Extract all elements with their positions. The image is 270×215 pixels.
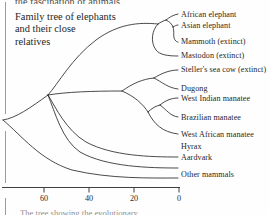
taxon-label-brazilian-manatee: Brazilian manatee xyxy=(181,113,241,122)
axis-tick-label-0: 0 xyxy=(167,194,191,203)
branch-paenungulata-to-proboscidea xyxy=(48,23,158,95)
branch-root-to-other-mammals xyxy=(3,120,178,178)
axis-tick-label-40: 40 xyxy=(77,194,101,203)
taxon-label-hyrax: Hyrax xyxy=(181,142,202,151)
branch-sirenia-to-dugongidae xyxy=(122,78,154,91)
axis-tick-label-20: 20 xyxy=(122,194,146,203)
branch-root-to-paenungulata xyxy=(3,95,48,120)
branch-to-west-indian-manatee xyxy=(160,98,178,105)
branch-sirenia-to-trichechidae xyxy=(122,91,148,112)
branch-elephantidae-to-asian-mammoth xyxy=(166,20,173,27)
branch-proboscidea-to-elephantidae xyxy=(158,20,166,24)
branch-paenungulata-to-sirenia xyxy=(48,91,122,95)
taxon-label-aardvark: Aardvark xyxy=(181,153,212,162)
taxon-label-mastodon: Mastodon (extinct) xyxy=(181,51,244,60)
taxon-label-other-mammals: Other mammals xyxy=(181,170,234,179)
cropped-text-below-figure: The tree showing the evolutionary xyxy=(20,208,230,215)
branch-trichechidae-to-manatee-pair xyxy=(148,105,160,112)
taxon-label-west-african-manatee: West African manatee xyxy=(181,130,254,139)
branch-to-dugong xyxy=(154,78,178,89)
taxon-label-mammoth: Mammoth (extinct) xyxy=(181,37,246,46)
branch-to-stellers-sea-cow xyxy=(154,70,178,78)
branch-to-mammoth xyxy=(173,27,178,42)
taxon-label-african-elephant: African elephant xyxy=(181,10,236,19)
taxon-label-stellers-sea-cow: Steller's sea cow (extinct) xyxy=(181,65,266,74)
taxon-label-dugong: Dugong xyxy=(181,84,208,93)
axis-tick-label-60: 60 xyxy=(32,194,56,203)
phylogenetic-tree-graphic xyxy=(0,0,270,215)
figure-page: the fascination of animals. Family tree … xyxy=(0,0,270,215)
branch-proboscidea-to-mastodon xyxy=(152,24,178,56)
branch-to-brazilian-manatee xyxy=(160,105,178,117)
branch-elephantidae-to-african-elephant xyxy=(166,14,178,20)
taxon-label-west-indian-manatee: West Indian manatee xyxy=(181,94,250,103)
taxon-label-asian-elephant: Asian elephant xyxy=(181,21,230,30)
branch-to-asian-elephant xyxy=(173,25,178,27)
